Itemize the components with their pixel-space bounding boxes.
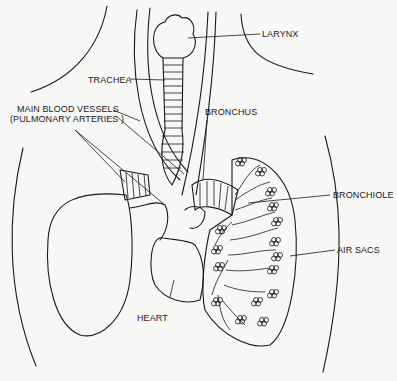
label-heart: HEART [137,313,168,323]
label-main-blood-vessels: MAIN BLOOD VESSELS [17,104,119,114]
air-sac-clusters [212,158,283,327]
label-bronchiole: BRONCHIOLE [333,190,394,200]
bronchiole-branches [212,165,278,330]
left-lung [47,194,132,336]
label-pulmonary-arteries: (PULMONARY ARTERIES ) [10,114,124,124]
body-outline-right-neck [241,14,313,74]
respiratory-diagram: LARYNX TRACHEA MAIN BLOOD VESSELS (PULMO… [0,0,397,381]
trachea-shape [162,58,183,185]
label-larynx: LARYNX [262,29,298,39]
right-lung [203,158,296,346]
label-bronchus: BRONCHUS [205,107,257,117]
body-outline-left-side [12,148,36,366]
heart-shape [151,238,203,302]
label-air-sacs: AIR SACS [337,245,380,255]
larynx-shape [153,15,195,58]
label-trachea: TRACHEA [88,75,132,85]
